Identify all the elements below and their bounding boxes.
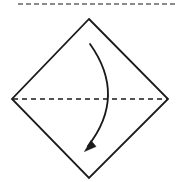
origami-fold-diagram: [0, 0, 179, 182]
diagram-canvas: [0, 0, 179, 182]
diagram-background: [0, 0, 179, 182]
